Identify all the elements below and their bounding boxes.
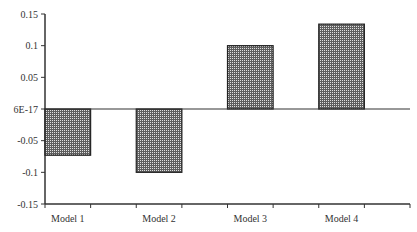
y-tick-label: 0.1 bbox=[26, 40, 39, 51]
y-axis: 0.150.10.056E-17-0.05-0.1-0.15 bbox=[14, 9, 45, 210]
bar-chart: 0.150.10.056E-17-0.05-0.1-0.15 Model 1Mo… bbox=[0, 0, 417, 232]
x-tick-label: Model 4 bbox=[325, 213, 359, 224]
bars bbox=[45, 24, 410, 172]
bar-model-3 bbox=[228, 46, 274, 109]
x-axis: Model 1Model 2Model 3Model 4 bbox=[45, 204, 410, 224]
x-tick-label: Model 3 bbox=[234, 213, 268, 224]
y-tick-label: -0.1 bbox=[22, 167, 38, 178]
x-tick-label: Model 2 bbox=[142, 213, 176, 224]
bar-model-2 bbox=[136, 109, 182, 172]
x-tick-label: Model 1 bbox=[51, 213, 85, 224]
y-tick-label: 6E-17 bbox=[14, 104, 38, 115]
bar-model-4 bbox=[319, 24, 365, 109]
bar-model-1 bbox=[45, 109, 91, 155]
y-tick-label: 0.05 bbox=[21, 72, 39, 83]
y-tick-label: 0.15 bbox=[21, 9, 39, 20]
y-tick-label: -0.05 bbox=[17, 135, 38, 146]
y-tick-label: -0.15 bbox=[17, 199, 38, 210]
